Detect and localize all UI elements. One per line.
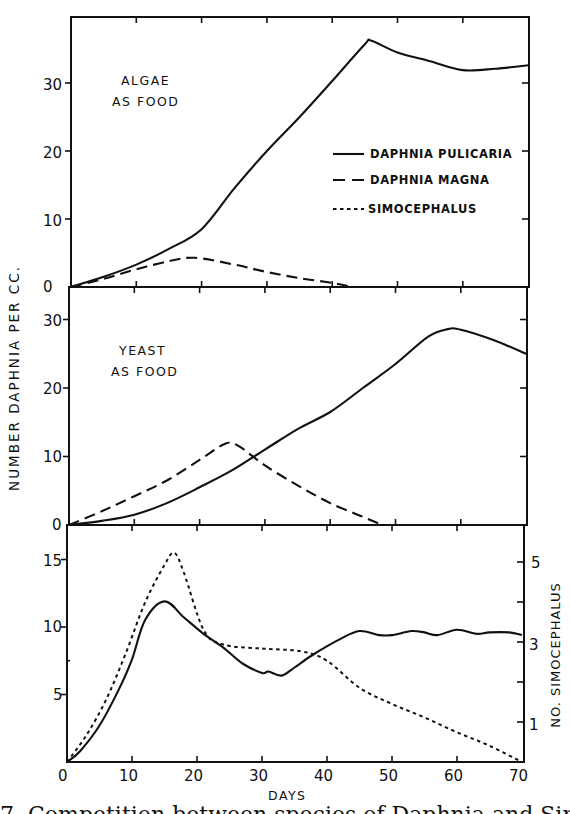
series-daphnia-pulicaria — [67, 601, 522, 762]
tick-label: 40 — [314, 767, 333, 785]
tick-label: 30 — [249, 767, 268, 785]
legend-label-magna: DAPHNIA MAGNA — [370, 173, 489, 187]
tick-label: 20 — [184, 767, 203, 785]
tick-label: 5 — [53, 686, 63, 704]
tick-label: 0 — [58, 767, 68, 785]
tick-label: 10 — [43, 448, 62, 466]
figure-caption: 7. Competition between species of Daphni… — [0, 802, 570, 814]
tick-label: 3 — [529, 636, 539, 654]
tick-label: 0 — [43, 278, 53, 296]
panel-label-algae-food: AS FOOD — [112, 94, 179, 109]
tick-label: 1 — [529, 716, 539, 734]
x-axis-title: DAYS — [268, 788, 307, 803]
figure: 0 10 20 30 0 10 20 30 5 10 15 1 3 5 0 10… — [0, 0, 570, 814]
tick-label: 30 — [43, 312, 62, 330]
top-y-tick-labels: 0 10 20 30 — [43, 76, 62, 296]
legend-label-simocephalus: SIMOCEPHALUS — [368, 202, 477, 216]
tick-label: 10 — [119, 767, 138, 785]
panel-label-algae: ALGAE — [121, 73, 170, 88]
middle-y-tick-labels: 0 10 20 30 — [43, 312, 62, 534]
series-daphnia-magna — [71, 258, 352, 287]
middle-panel-frame — [69, 287, 527, 525]
tick-label: 15 — [43, 552, 62, 570]
panel-label-yeast-food: AS FOOD — [111, 364, 178, 379]
tick-label: 50 — [379, 767, 398, 785]
tick-label: 30 — [43, 76, 62, 94]
tick-label: 20 — [43, 380, 62, 398]
series-simocephalus — [67, 553, 522, 762]
tick-label: 10 — [43, 212, 62, 230]
x-tick-labels: 0 10 20 30 40 50 60 70 — [58, 767, 528, 785]
y2-axis-title: NO. SIMOCEPHALUS — [548, 582, 563, 727]
tick-label: 0 — [52, 516, 62, 534]
series-daphnia-magna — [69, 442, 382, 525]
legend: DAPHNIA PULICARIA DAPHNIA MAGNA SIMOCEPH… — [333, 147, 512, 216]
tick-label: 20 — [43, 144, 62, 162]
axis-ticks — [61, 17, 529, 762]
tick-label: 60 — [444, 767, 463, 785]
legend-label-pulicaria: DAPHNIA PULICARIA — [370, 147, 512, 161]
tick-label: 70 — [509, 767, 528, 785]
tick-label: 5 — [531, 554, 541, 572]
bottom-y2-tick-labels: 1 3 5 — [529, 554, 541, 734]
bottom-y-tick-labels: 5 10 15 — [43, 552, 63, 704]
panel-label-yeast: YEAST — [118, 343, 166, 358]
bottom-panel-frame — [67, 525, 524, 762]
y-axis-title: NUMBER DAPHNIA PER CC. — [6, 265, 22, 491]
tick-label: 10 — [43, 618, 62, 636]
